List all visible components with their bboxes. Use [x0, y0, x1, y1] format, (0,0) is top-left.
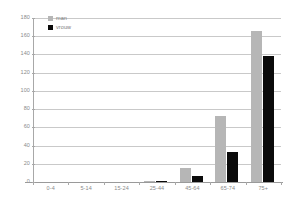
legend-swatch-icon [48, 25, 53, 30]
y-tick-mark [32, 36, 35, 37]
x-tick-label: 0-4 [33, 186, 68, 192]
bar-vrouw-45-64 [192, 176, 203, 182]
legend-item-vrouw[interactable]: vrouw [48, 25, 71, 31]
legend-swatch-icon [48, 16, 53, 21]
bar-group [210, 18, 245, 182]
gridline [33, 182, 281, 183]
bar-man-75+ [251, 31, 262, 182]
x-tick-mark [139, 182, 140, 185]
x-tick-label: 5-14 [68, 186, 103, 192]
bar-group [175, 18, 210, 182]
x-tick-mark [33, 182, 34, 185]
x-tick-label: 15-24 [104, 186, 139, 192]
bar-man-65-74 [215, 116, 226, 182]
bar-group [104, 18, 139, 182]
y-tick-label: 80 [4, 106, 30, 112]
bar-vrouw-65-74 [227, 152, 238, 182]
x-tick-label: 25-44 [139, 186, 174, 192]
x-tick-label: 65-74 [210, 186, 245, 192]
chart-legend: manvrouw [48, 16, 71, 30]
x-tick-mark [68, 182, 69, 185]
bar-group [139, 18, 174, 182]
x-axis-labels: 0-45-1415-2425-4445-6465-7475+ [33, 186, 281, 202]
y-tick-label: 120 [4, 70, 30, 76]
y-tick-mark [32, 54, 35, 55]
x-tick-mark [210, 182, 211, 185]
y-tick-label: 180 [4, 15, 30, 21]
x-tick-label: 45-64 [175, 186, 210, 192]
y-tick-label: 100 [4, 88, 30, 94]
y-tick-mark [32, 146, 35, 147]
y-tick-mark [32, 91, 35, 92]
y-tick-label: 140 [4, 51, 30, 57]
y-tick-mark [32, 18, 35, 19]
legend-label: man [56, 16, 67, 22]
y-tick-mark [32, 127, 35, 128]
x-tick-mark [104, 182, 105, 185]
x-tick-label: 75+ [246, 186, 281, 192]
bar-man-25-44 [144, 181, 155, 182]
y-tick-mark [32, 164, 35, 165]
y-axis: 020406080100120140160180 [0, 0, 30, 209]
y-tick-mark [32, 73, 35, 74]
bar-vrouw-25-44 [156, 181, 167, 182]
bar-group [246, 18, 281, 182]
bar-vrouw-75+ [263, 56, 274, 182]
y-tick-label: 60 [4, 124, 30, 130]
legend-label: vrouw [56, 25, 71, 31]
x-tick-mark [246, 182, 247, 185]
legend-item-man[interactable]: man [48, 16, 71, 22]
y-tick-label: 40 [4, 143, 30, 149]
plot-area [33, 18, 281, 182]
y-tick-mark [32, 109, 35, 110]
x-tick-mark [175, 182, 176, 185]
y-tick-label: 20 [4, 161, 30, 167]
bar-group [68, 18, 103, 182]
y-tick-label: 160 [4, 33, 30, 39]
bar-group [33, 18, 68, 182]
bar-chart: 020406080100120140160180 0-45-1415-2425-… [0, 0, 290, 209]
x-tick-mark [281, 182, 282, 185]
bar-man-45-64 [180, 168, 191, 182]
